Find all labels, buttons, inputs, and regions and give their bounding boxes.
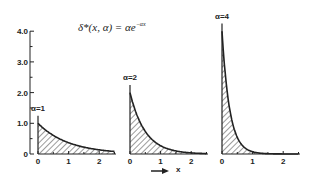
x-tick-label: 1	[158, 157, 163, 166]
formula-label: δ*(x, α) = αe−αx	[78, 21, 146, 33]
y-tick-label: 2.0	[17, 89, 29, 98]
x-tick-label: 0	[128, 157, 133, 166]
y-tick-label: 4.0	[17, 27, 29, 36]
panel-alpha-1: 012α=1	[31, 104, 116, 166]
alpha-label: α=2	[123, 73, 138, 82]
chart-panels: 012α=1012α=2012α=4	[31, 12, 300, 166]
hatched-area	[38, 123, 115, 154]
exponential-decay-chart: 01.02.03.04.0 012α=1012α=2012α=4	[0, 0, 313, 183]
x-tick-label: 2	[189, 157, 194, 166]
x-tick-label: 1	[250, 157, 255, 166]
y-tick-label: 1.0	[17, 119, 29, 128]
x-tick-label: 0	[36, 157, 41, 166]
hatched-area	[222, 31, 299, 154]
x-tick-label: 1	[66, 157, 71, 166]
y-tick-label: 3.0	[17, 58, 29, 67]
x-tick-label: 2	[97, 157, 102, 166]
y-tick-label: 0	[24, 150, 29, 159]
alpha-label: α=1	[31, 104, 46, 113]
x-tick-label: 0	[220, 157, 225, 166]
alpha-label: α=4	[215, 12, 230, 21]
panel-alpha-2: 012α=2	[123, 73, 208, 166]
x-tick-label: 2	[281, 157, 286, 166]
panel-alpha-4: 012α=4	[215, 12, 300, 166]
x-axis-label: x	[176, 165, 180, 174]
x-direction-arrow-icon	[151, 168, 169, 174]
y-axis: 01.02.03.04.0	[17, 27, 34, 159]
